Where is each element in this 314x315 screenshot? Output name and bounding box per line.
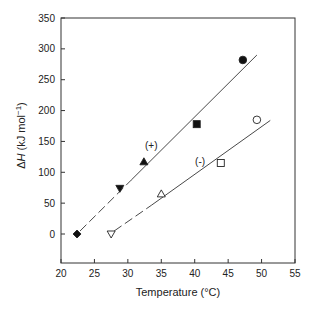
y-tick-label: 150 [38, 136, 55, 147]
x-axis-label: Temperature (°C) [136, 286, 220, 298]
x-tick-label: 50 [256, 268, 268, 279]
enthalpy-temperature-chart: 2025303540455055050100150200250300350Tem… [0, 0, 314, 315]
y-tick-label: 350 [38, 13, 55, 24]
x-tick-label: 35 [156, 268, 168, 279]
series-annotation: (-) [195, 156, 205, 167]
y-axis-label: ΔH (kJ mol−1) [14, 102, 28, 169]
fit-line [131, 55, 257, 180]
fit-line [151, 120, 270, 205]
square-open-marker [217, 160, 224, 167]
fit-line-dashed [114, 205, 151, 231]
x-tick-label: 20 [55, 268, 67, 279]
y-tick-label: 0 [49, 229, 55, 240]
y-tick-label: 200 [38, 105, 55, 116]
diamond-filled-marker [73, 230, 81, 238]
x-tick-label: 25 [89, 268, 101, 279]
triangle-up-filled-marker [140, 158, 148, 165]
circle-open-marker [253, 116, 261, 124]
x-tick-label: 40 [189, 268, 201, 279]
plot-frame [61, 18, 295, 263]
triangle-down-open-marker [107, 231, 115, 238]
square-filled-marker [193, 121, 200, 128]
x-tick-label: 30 [122, 268, 134, 279]
x-tick-label: 45 [223, 268, 235, 279]
y-tick-label: 50 [44, 198, 56, 209]
triangle-up-open-marker [157, 190, 165, 197]
fit-line-dashed [80, 180, 131, 231]
y-tick-label: 100 [38, 167, 55, 178]
series-annotation: (+) [145, 140, 158, 151]
circle-filled-marker [239, 56, 247, 64]
y-tick-label: 250 [38, 74, 55, 85]
y-tick-label: 300 [38, 43, 55, 54]
x-tick-label: 55 [289, 268, 301, 279]
